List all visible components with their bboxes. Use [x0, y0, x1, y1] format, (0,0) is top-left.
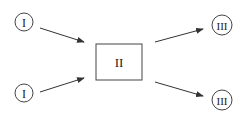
node-label: II: [115, 55, 124, 70]
node-label: I: [22, 16, 26, 30]
node-label: III: [217, 20, 228, 32]
node-label: III: [217, 95, 228, 107]
node-output-bottom: III: [212, 90, 232, 110]
flow-diagram: I I II III III: [0, 0, 248, 113]
arrow-box-to-output-top: [155, 29, 203, 42]
arrow-box-to-output-bottom: [155, 82, 203, 96]
node-output-top: III: [212, 15, 232, 35]
node-input-top: I: [15, 13, 33, 31]
arrow-input-top-to-box: [40, 28, 84, 42]
arrow-input-bottom-to-box: [40, 78, 84, 92]
node-input-bottom: I: [15, 84, 33, 102]
node-label: I: [22, 87, 26, 101]
node-center-box: II: [96, 44, 142, 80]
